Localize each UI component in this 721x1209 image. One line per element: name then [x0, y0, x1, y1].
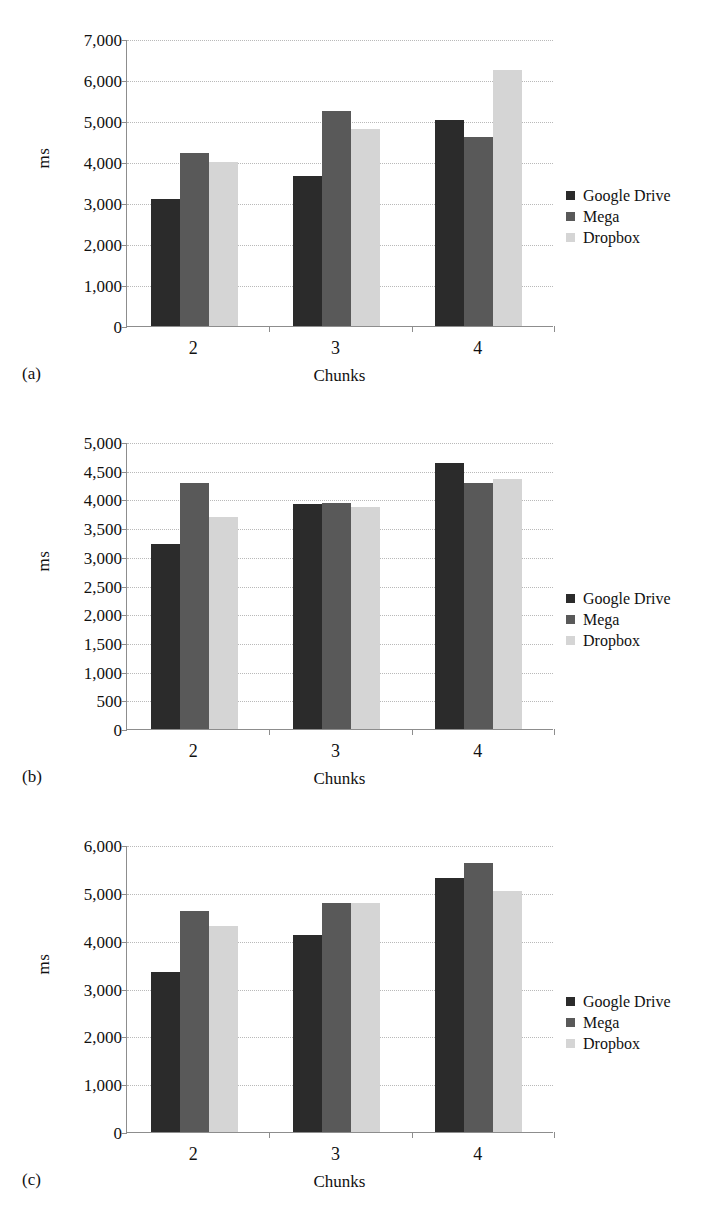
y-axis-tick-label: 5,000 [40, 885, 122, 902]
bar-dropbox [493, 479, 522, 729]
bars-layer [127, 846, 553, 1132]
bar-dropbox [351, 507, 380, 729]
bars-layer [127, 443, 553, 729]
legend-swatch-icon [566, 233, 575, 242]
bar-mega [322, 111, 351, 326]
legend-item: Dropbox [566, 228, 671, 247]
panel-caption: (c) [22, 1170, 41, 1190]
y-axis-tick-label: 4,000 [40, 933, 122, 950]
bar-mega [464, 483, 493, 729]
x-axis-tick-mark [269, 1132, 270, 1138]
y-axis-tick-label: 2,000 [40, 607, 122, 624]
y-axis-tick-label: 3,500 [40, 521, 122, 538]
x-axis-tick-mark [554, 729, 555, 735]
x-axis-tick-mark [554, 326, 555, 332]
legend-item-label: Mega [583, 612, 619, 628]
y-axis-tick-label: 0 [40, 1125, 122, 1142]
y-axis-tick-label: 5,000 [40, 435, 122, 452]
y-axis-tick-mark [121, 730, 127, 731]
legend-swatch-icon [566, 594, 575, 603]
legend-item-label: Mega [583, 1015, 619, 1031]
y-axis-tick-label: 0 [40, 722, 122, 739]
x-axis-tick-label: 4 [473, 741, 482, 762]
y-axis-tick-label: 4,500 [40, 463, 122, 480]
x-axis-tick-label: 2 [189, 741, 198, 762]
plot-area [126, 443, 553, 730]
bar-google-drive [293, 504, 322, 729]
y-axis-tick-label: 1,500 [40, 635, 122, 652]
y-axis-tick-mark [121, 327, 127, 328]
y-axis-tick-label: 6,000 [40, 838, 122, 855]
bar-google-drive [293, 176, 322, 326]
bars-layer [127, 40, 553, 326]
legend-swatch-icon [566, 1018, 575, 1027]
legend-swatch-icon [566, 636, 575, 645]
bar-dropbox [209, 162, 238, 326]
legend-item: Mega [566, 610, 671, 629]
legend: Google DriveMegaDropbox [566, 992, 671, 1055]
y-axis-tick-mark [121, 1133, 127, 1134]
panel-caption: (a) [22, 364, 41, 384]
y-axis-tick-label: 2,500 [40, 578, 122, 595]
x-axis-tick-mark [412, 729, 413, 735]
y-axis-tick-labels: 01,0002,0003,0004,0005,0006,0007,000 [40, 0, 122, 403]
bar-mega [322, 903, 351, 1132]
bar-mega [464, 137, 493, 326]
panel-caption: (b) [22, 767, 42, 787]
bar-google-drive [151, 199, 180, 327]
bar-google-drive [435, 120, 464, 326]
bar-dropbox [493, 70, 522, 326]
y-axis-tick-label: 0 [40, 319, 122, 336]
legend: Google DriveMegaDropbox [566, 186, 671, 249]
bar-google-drive [293, 935, 322, 1132]
legend: Google DriveMegaDropbox [566, 589, 671, 652]
y-axis-tick-label: 5,000 [40, 114, 122, 131]
y-axis-tick-labels: 01,0002,0003,0004,0005,0006,000 [40, 806, 122, 1209]
figure-panel-b: ms05001,0001,5002,0002,5003,0003,5004,00… [0, 403, 721, 806]
legend-swatch-icon [566, 191, 575, 200]
legend-item-label: Google Drive [583, 591, 671, 607]
legend-item: Mega [566, 207, 671, 226]
legend-item-label: Google Drive [583, 994, 671, 1010]
y-axis-tick-labels: 05001,0001,5002,0002,5003,0003,5004,0004… [40, 403, 122, 806]
bar-mega [180, 911, 209, 1132]
bar-dropbox [493, 891, 522, 1132]
x-axis-tick-mark [412, 326, 413, 332]
y-axis-tick-label: 1,000 [40, 664, 122, 681]
x-axis-tick-label: 4 [473, 1144, 482, 1165]
y-axis-tick-label: 500 [40, 693, 122, 710]
y-axis-tick-label: 1,000 [40, 1077, 122, 1094]
x-axis-title: Chunks [126, 366, 553, 386]
y-axis-tick-label: 7,000 [40, 32, 122, 49]
bar-mega [180, 483, 209, 729]
x-axis-tick-mark [412, 1132, 413, 1138]
y-axis-tick-label: 3,000 [40, 549, 122, 566]
bar-dropbox [209, 926, 238, 1132]
figure-panel-a: ms01,0002,0003,0004,0005,0006,0007,00023… [0, 0, 721, 403]
legend-item-label: Dropbox [583, 633, 640, 649]
legend-swatch-icon [566, 212, 575, 221]
legend-item-label: Mega [583, 209, 619, 225]
plot-area [126, 846, 553, 1133]
legend-swatch-icon [566, 615, 575, 624]
y-axis-tick-label: 6,000 [40, 73, 122, 90]
bar-google-drive [151, 972, 180, 1132]
legend-item: Dropbox [566, 1034, 671, 1053]
plot-area [126, 40, 553, 327]
y-axis-tick-label: 4,000 [40, 492, 122, 509]
legend-item: Mega [566, 1013, 671, 1032]
y-axis-tick-label: 4,000 [40, 155, 122, 172]
x-axis-tick-mark [554, 1132, 555, 1138]
x-axis-tick-mark [269, 729, 270, 735]
bar-google-drive [151, 544, 180, 729]
bar-dropbox [351, 129, 380, 326]
x-axis-tick-label: 3 [331, 741, 340, 762]
y-axis-tick-label: 2,000 [40, 1029, 122, 1046]
figure-panel-c: ms01,0002,0003,0004,0005,0006,000234Chun… [0, 806, 721, 1209]
bar-dropbox [351, 903, 380, 1132]
x-axis-tick-label: 2 [189, 338, 198, 359]
x-axis-tick-label: 3 [331, 1144, 340, 1165]
x-axis-tick-mark [269, 326, 270, 332]
legend-item: Dropbox [566, 631, 671, 650]
legend-item: Google Drive [566, 992, 671, 1011]
